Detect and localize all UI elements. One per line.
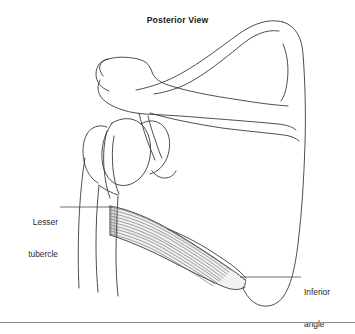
callout-inferior-angle-line2: angle xyxy=(304,319,355,330)
callout-lesser-tubercle: Lesser tubercle xyxy=(0,196,58,281)
infraspinous-fossa-contour xyxy=(150,113,299,141)
callout-lesser-tubercle-line1: Lesser xyxy=(0,217,58,228)
supraspinous-fossa-contour xyxy=(154,31,279,94)
humerus-shaft-medial xyxy=(78,158,85,288)
figure-title: Posterior View xyxy=(0,15,355,26)
scapula-lateral-border xyxy=(243,22,305,306)
intertubercular-groove-lateral xyxy=(112,136,119,194)
callout-inferior-angle: Inferior angle xyxy=(304,266,355,334)
callout-lesser-tubercle-line2: tubercle xyxy=(0,249,58,260)
scapula-superior-ridge xyxy=(281,44,288,101)
acromion-descending-process xyxy=(139,113,155,160)
humerus-shaft-middle xyxy=(96,185,99,292)
intertubercular-groove-medial xyxy=(104,131,110,198)
humerus-surgical-neck xyxy=(100,186,118,195)
scapular-spine-upper-edge xyxy=(100,57,288,106)
anatomy-line-art xyxy=(0,0,355,334)
teres-major-belly-shade xyxy=(110,206,246,290)
anatomy-figure: Posterior View Lesser tubercle Inferior … xyxy=(0,0,355,334)
bottom-divider xyxy=(0,322,355,323)
callout-inferior-angle-line1: Inferior xyxy=(304,287,355,298)
scapular-spine-lower-edge xyxy=(98,80,296,130)
